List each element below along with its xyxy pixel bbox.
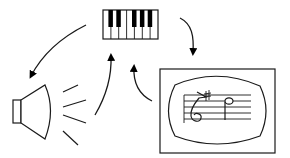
- sound-wave-line: [63, 100, 86, 107]
- arrow-sound-to-keyboard: [95, 56, 111, 115]
- sound-wave-line: [63, 85, 78, 92]
- diagram-svg: [0, 0, 290, 158]
- sound-wave-line: [63, 131, 78, 145]
- arrow-score-to-keyboard: [134, 67, 152, 101]
- diagram-canvas: [0, 0, 290, 158]
- sound-wave-line: [63, 115, 86, 123]
- arrow-keyboard-to-speaker: [31, 25, 86, 76]
- piano-keyboard-icon: [103, 10, 158, 39]
- arrow-keyboard-to-score: [180, 18, 193, 53]
- speaker-icon: [13, 85, 86, 145]
- music-score-display-icon: [160, 69, 275, 153]
